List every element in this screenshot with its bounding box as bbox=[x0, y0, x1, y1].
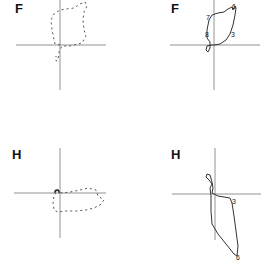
annotation-6: 6 bbox=[232, 3, 236, 10]
plot-h-right bbox=[134, 136, 268, 272]
annotation-7: 7 bbox=[206, 14, 210, 21]
panel-f-right: F 6 7 8 3 bbox=[134, 0, 268, 136]
plot-f-left bbox=[0, 0, 134, 136]
plot-h-left bbox=[0, 136, 134, 272]
panel-f-left: F bbox=[0, 0, 134, 136]
annotation-3: 3 bbox=[232, 198, 236, 205]
trace-solid bbox=[206, 174, 238, 256]
panel-h-right: H 3 6 bbox=[134, 136, 268, 272]
panel-h-left: H bbox=[0, 136, 134, 272]
annotation-8: 8 bbox=[205, 31, 209, 38]
annotation-6: 6 bbox=[236, 254, 240, 261]
trace-dashed bbox=[53, 188, 104, 212]
annotation-3: 3 bbox=[231, 31, 235, 38]
plot-f-right bbox=[134, 0, 268, 136]
trace-start-loop bbox=[55, 190, 59, 193]
trace-dashed bbox=[51, 2, 87, 61]
